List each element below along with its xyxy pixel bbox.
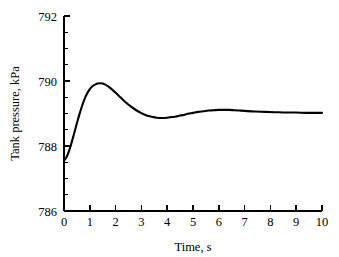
x-tick-label: 7 bbox=[241, 215, 247, 229]
x-axis bbox=[64, 205, 322, 211]
x-tick-label: 6 bbox=[216, 215, 222, 229]
data-curve-tank-pressure bbox=[64, 83, 322, 160]
data-series-group bbox=[64, 83, 322, 160]
x-tick-label: 10 bbox=[316, 215, 329, 229]
y-axis-title: Tank pressure, kPa bbox=[8, 66, 22, 161]
axis-labels-group: 786788790792012345678910Time, sTank pres… bbox=[8, 10, 328, 255]
x-tick-label: 3 bbox=[138, 215, 144, 229]
x-tick-label: 9 bbox=[293, 215, 299, 229]
x-tick-label: 4 bbox=[164, 215, 171, 229]
x-axis-title: Time, s bbox=[174, 240, 211, 254]
y-tick-label: 788 bbox=[38, 140, 57, 154]
y-tick-label: 790 bbox=[38, 75, 57, 89]
y-axis bbox=[64, 16, 70, 211]
x-tick-label: 5 bbox=[190, 215, 196, 229]
x-tick-label: 1 bbox=[87, 215, 93, 229]
x-tick-label: 2 bbox=[112, 215, 118, 229]
y-tick-label: 786 bbox=[38, 205, 57, 219]
x-tick-label: 8 bbox=[267, 215, 273, 229]
x-tick-label: 0 bbox=[61, 215, 67, 229]
chart-figure: 786788790792012345678910Time, sTank pres… bbox=[0, 0, 339, 257]
chart-plot-area: 786788790792012345678910Time, sTank pres… bbox=[0, 0, 339, 257]
y-tick-label: 792 bbox=[38, 10, 57, 24]
